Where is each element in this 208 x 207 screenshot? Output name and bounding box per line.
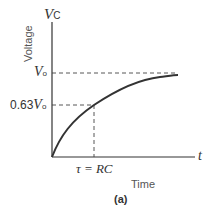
- charging-curve: [52, 75, 178, 157]
- y-axis-label: Voltage: [22, 25, 34, 62]
- x-axis-label: Time: [131, 178, 155, 190]
- v63-tick-label: 0.63Vo: [10, 97, 46, 113]
- figure-caption: (a): [114, 193, 127, 205]
- tau-tick-label: τ = RC: [76, 161, 113, 177]
- y-axis-symbol: VC: [44, 6, 60, 23]
- x-axis-symbol: t: [198, 148, 202, 164]
- v0-tick-label: Vo: [34, 64, 47, 80]
